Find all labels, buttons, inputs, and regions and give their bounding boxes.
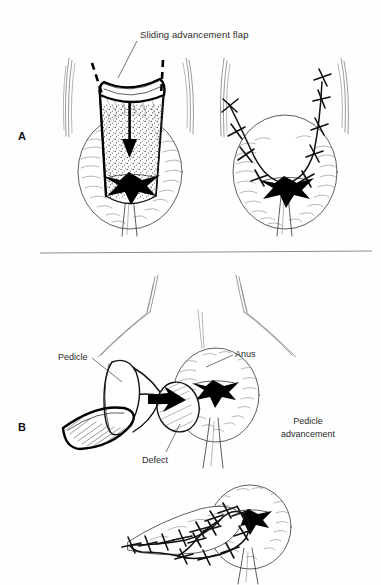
label-sliding-advancement-flap: Sliding advancement flap (140, 29, 249, 40)
illustration-canvas: A Sliding advancement flap (0, 0, 381, 585)
label-pedicle: Pedicle (58, 352, 88, 362)
buttock-outline-a2 (233, 115, 337, 229)
canvas-background (0, 0, 381, 585)
label-anus: Anus (235, 349, 256, 359)
label-pedicle-advancement-line1: Pedicle (293, 416, 323, 426)
panel-a-letter: A (18, 130, 26, 142)
label-pedicle-advancement-line2: advancement (281, 429, 336, 439)
panel-b-letter: B (18, 421, 26, 433)
figure-root: A Sliding advancement flap (0, 0, 381, 585)
label-defect: Defect (142, 455, 169, 465)
